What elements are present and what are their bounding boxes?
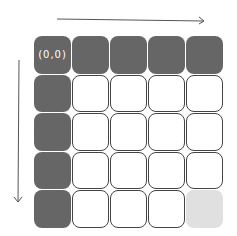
- grid-cell-3-0: [34, 152, 71, 190]
- grid-cell-2-2: [110, 113, 147, 151]
- grid-cell-3-2: [110, 152, 147, 190]
- right-arrow-icon: [57, 17, 204, 24]
- grid-cell-2-0: [34, 113, 71, 151]
- grid-cell-2-1: [72, 113, 109, 151]
- grid-cell-3-3: [148, 152, 185, 190]
- grid-cell-0-3: [148, 36, 185, 74]
- grid-cell-0-1: [72, 36, 109, 74]
- grid-cell-0-4: [186, 36, 223, 74]
- origin-label: (0,0): [38, 49, 67, 60]
- grid-cell-4-0: [34, 190, 71, 228]
- grid-cell-0-2: [110, 36, 147, 74]
- down-arrow-icon: [14, 60, 22, 202]
- grid-cell-4-4: [186, 190, 223, 228]
- grid-cell-4-1: [72, 190, 109, 228]
- grid-cell-1-0: [34, 75, 71, 113]
- grid-cell-1-4: [186, 75, 223, 113]
- grid: (0,0): [34, 36, 223, 228]
- grid-cell-4-3: [148, 190, 185, 228]
- grid-cell-3-1: [72, 152, 109, 190]
- grid-cell-1-2: [110, 75, 147, 113]
- grid-cell-2-4: [186, 113, 223, 151]
- grid-cell-1-1: [72, 75, 109, 113]
- grid-cell-2-3: [148, 113, 185, 151]
- grid-cell-3-4: [186, 152, 223, 190]
- grid-cell-0-0: (0,0): [34, 36, 71, 74]
- grid-cell-4-2: [110, 190, 147, 228]
- grid-cell-1-3: [148, 75, 185, 113]
